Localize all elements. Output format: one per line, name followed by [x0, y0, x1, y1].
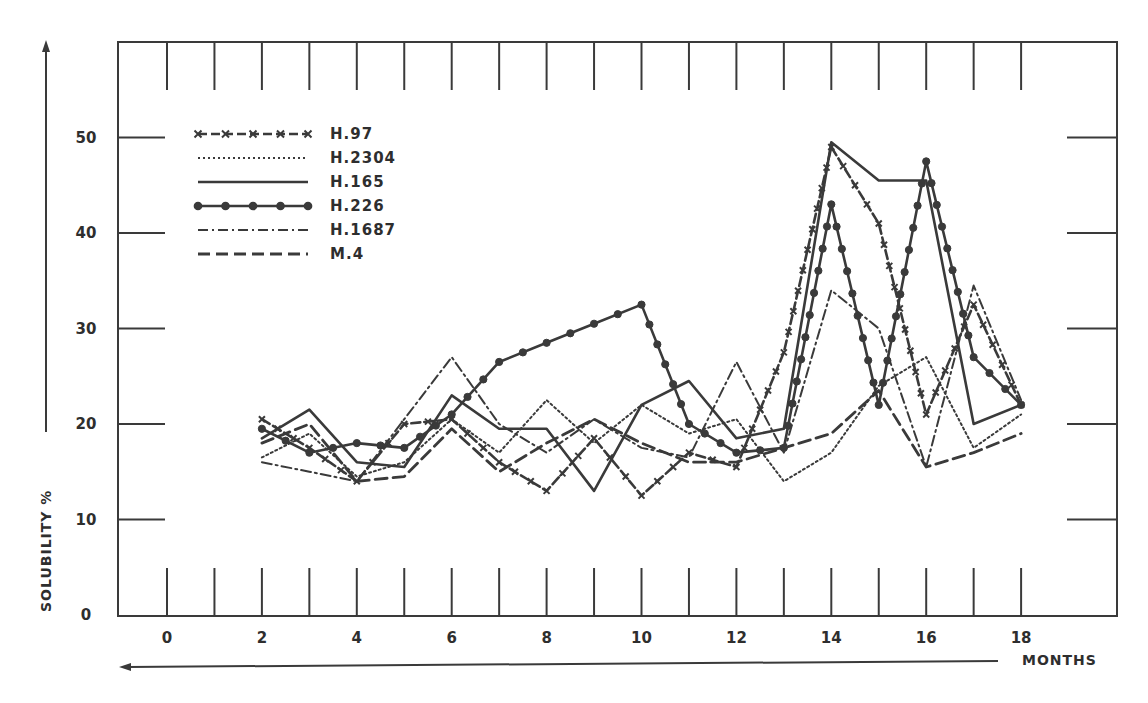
x-tick-label: 18 [1011, 629, 1032, 647]
legend-item: H.226 [194, 197, 384, 215]
circle-marker-icon [448, 411, 455, 418]
x-tick-label: 10 [631, 629, 652, 647]
x-marker-icon [639, 493, 645, 499]
series-h2304 [262, 357, 1021, 481]
circle-marker-icon [986, 369, 993, 376]
circle-marker-icon [677, 401, 684, 408]
circle-marker-icon [1018, 401, 1025, 408]
x-tick-label: 2 [257, 629, 267, 647]
x-marker-icon [480, 445, 486, 451]
circle-marker-icon [865, 357, 872, 364]
circle-marker-icon [815, 267, 822, 274]
circle-marker-icon [662, 361, 669, 368]
circle-marker-icon [970, 354, 977, 361]
x-tick-label: 4 [352, 629, 362, 647]
circle-marker-icon [918, 180, 925, 187]
legend-label: M.4 [330, 245, 364, 263]
circle-marker-icon [353, 440, 360, 447]
circle-marker-icon [685, 420, 692, 427]
legend-label: H.165 [330, 173, 385, 191]
x-tick-label: 6 [446, 629, 456, 647]
circle-marker-icon [480, 376, 487, 383]
circle-marker-icon [938, 223, 945, 230]
circle-marker-icon [277, 202, 284, 209]
x-tick-label: 0 [162, 629, 172, 647]
circle-marker-icon [910, 224, 917, 231]
circle-marker-icon [833, 223, 840, 230]
circle-marker-icon [222, 202, 229, 209]
arrow-up-icon [42, 40, 50, 52]
circle-marker-icon [282, 437, 289, 444]
legend-item: H.2304 [198, 149, 396, 167]
circle-marker-icon [614, 311, 621, 318]
x-tick-label: 14 [821, 629, 842, 647]
circle-marker-icon [928, 180, 935, 187]
circle-marker-icon [892, 313, 899, 320]
y-axis-title: SOLUBILITY % [38, 490, 54, 612]
legend-item: H.1687 [198, 221, 396, 239]
circle-marker-icon [944, 245, 951, 252]
circle-marker-icon [432, 422, 439, 429]
circle-marker-icon [793, 378, 800, 385]
legend-item: M.4 [198, 245, 364, 263]
x-axis-title: MONTHS [1022, 652, 1097, 668]
circle-marker-icon [717, 440, 724, 447]
x-marker-icon [670, 464, 676, 470]
circle-marker-icon [823, 223, 830, 230]
circle-marker-icon [859, 334, 866, 341]
legend-label: H.1687 [330, 221, 396, 239]
circle-marker-icon [789, 400, 796, 407]
legend: H.97H.2304H.165H.226H.1687M.4 [194, 125, 396, 263]
circle-marker-icon [258, 425, 265, 432]
circle-marker-icon [844, 268, 851, 275]
y-tick-label: 20 [76, 415, 97, 433]
y-axis-tick-labels: 01020304050 [76, 129, 97, 625]
y-tick-label: 40 [76, 224, 97, 242]
arrow-left-icon [119, 663, 131, 671]
circle-marker-icon [757, 447, 764, 454]
circle-marker-icon [949, 267, 956, 274]
circle-marker-icon [888, 335, 895, 342]
y-tick-label: 50 [76, 129, 97, 147]
circle-marker-icon [496, 358, 503, 365]
y-tick-label: 0 [81, 606, 91, 624]
legend-item: H.165 [198, 173, 385, 191]
circle-marker-icon [646, 321, 653, 328]
circle-marker-icon [819, 245, 826, 252]
circle-marker-icon [304, 202, 311, 209]
x-tick-label: 8 [541, 629, 551, 647]
circle-marker-icon [954, 288, 961, 295]
circle-marker-icon [905, 246, 912, 253]
circle-marker-icon [249, 202, 256, 209]
circle-marker-icon [870, 379, 877, 386]
circle-marker-icon [933, 201, 940, 208]
legend-label: H.97 [330, 125, 373, 143]
x-marker-icon [575, 453, 581, 459]
circle-marker-icon [798, 356, 805, 363]
circle-marker-icon [543, 339, 550, 346]
legend-label: H.226 [330, 197, 385, 215]
x-marker-icon [654, 478, 660, 484]
circle-marker-icon [897, 291, 904, 298]
x-marker-icon [623, 474, 629, 480]
solubility-chart: 01020304050 024681012141618 H.97H.2304H.… [0, 0, 1148, 703]
circle-marker-icon [590, 320, 597, 327]
circle-marker-icon [965, 332, 972, 339]
circle-marker-icon [519, 349, 526, 356]
circle-marker-icon [828, 201, 835, 208]
circle-marker-icon [810, 289, 817, 296]
circle-marker-icon [875, 401, 882, 408]
circle-marker-icon [1002, 385, 1009, 392]
y-tick-label: 10 [76, 511, 97, 529]
circle-marker-icon [923, 158, 930, 165]
circle-marker-icon [901, 268, 908, 275]
legend-item: H.97 [195, 125, 374, 143]
x-axis-tick-labels: 024681012141618 [162, 629, 1032, 647]
circle-marker-icon [567, 330, 574, 337]
circle-marker-icon [464, 393, 471, 400]
circle-marker-icon [416, 433, 423, 440]
x-axis-arrow [119, 661, 998, 671]
circle-marker-icon [733, 449, 740, 456]
circle-marker-icon [914, 202, 921, 209]
y-axis-arrow [42, 40, 50, 432]
